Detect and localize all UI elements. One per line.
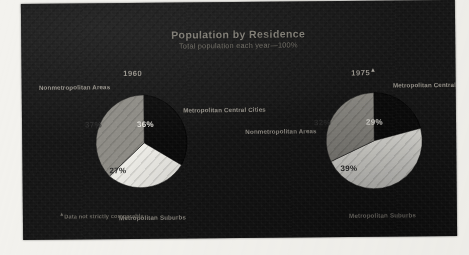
- callout-nonmetropolitan-areas-1975: Nonmetropolitan Areas: [234, 119, 308, 142]
- pie-chart-1975: [304, 70, 445, 211]
- callout-text: Metropolitan Suburbs: [349, 211, 416, 219]
- footnote-text: Data not strictly comparable: [64, 213, 143, 220]
- slice-value-metropolitan-central-cities-1960: 36%: [137, 120, 154, 129]
- slice-value-nonmetropolitan-areas-1960: 37%: [85, 120, 102, 129]
- pie-chart-1960: [74, 72, 215, 213]
- photographed-page: Population by Residence Total population…: [0, 0, 469, 255]
- slice-value-metropolitan-central-cities-1975: 29%: [366, 118, 383, 127]
- chart-panel: Population by Residence Total population…: [21, 0, 457, 240]
- slice-value-metropolitan-suburbs-1960: 27%: [109, 166, 126, 175]
- slice-value-nonmetropolitan-areas-1975: 32%: [314, 118, 331, 127]
- chart-footnote: ▲Data not strictly comparable: [49, 204, 144, 226]
- slice-value-metropolitan-suburbs-1975: 39%: [340, 164, 357, 173]
